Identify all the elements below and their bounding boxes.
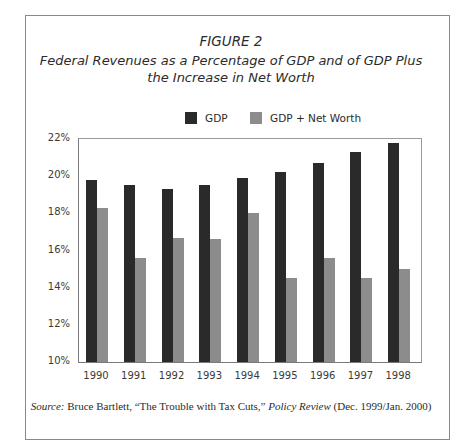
x-tick-label: 1998 <box>379 370 417 381</box>
source-author: Bruce Bartlett, “The Trouble with Tax Cu… <box>64 400 268 412</box>
legend: GDP GDP + Net Worth <box>0 110 462 126</box>
bar-gdp-net-worth-1991 <box>135 258 146 362</box>
y-tick-label: 14% <box>36 281 70 292</box>
bar-gdp-1993 <box>199 185 210 362</box>
bar-gdp-1996 <box>313 163 324 362</box>
bar-gdp-net-worth-1994 <box>248 213 259 362</box>
legend-label-gdp-net-worth: GDP + Net Worth <box>270 112 361 124</box>
y-tick-label: 20% <box>36 169 70 180</box>
bar-gdp-1994 <box>237 178 248 362</box>
bar-gdp-1995 <box>275 172 286 362</box>
bar-gdp-1997 <box>350 152 361 362</box>
legend-label-gdp: GDP <box>205 112 228 124</box>
y-tick-label: 16% <box>36 244 70 255</box>
plot-area <box>78 138 422 363</box>
source-note: Source: Bruce Bartlett, “The Trouble wit… <box>0 400 462 412</box>
chart-title-line-1: Federal Revenues as a Percentage of GDP … <box>0 52 462 69</box>
figure-label: FIGURE 2 <box>0 33 462 49</box>
bar-gdp-1991 <box>124 185 135 362</box>
chart-title: Federal Revenues as a Percentage of GDP … <box>0 52 462 86</box>
y-tick-label: 12% <box>36 318 70 329</box>
legend-swatch-gdp-net-worth <box>250 112 262 124</box>
bar-gdp-1990 <box>86 180 97 362</box>
x-tick-label: 1990 <box>77 370 115 381</box>
legend-swatch-gdp <box>185 112 197 124</box>
source-prefix: Source: <box>31 400 65 412</box>
bar-gdp-1998 <box>388 143 399 362</box>
y-tick-label: 22% <box>36 132 70 143</box>
x-tick-label: 1996 <box>304 370 342 381</box>
x-tick-label: 1991 <box>115 370 153 381</box>
x-tick-label: 1995 <box>266 370 304 381</box>
bar-gdp-net-worth-1992 <box>173 238 184 363</box>
x-tick-label: 1997 <box>341 370 379 381</box>
bar-gdp-net-worth-1990 <box>97 208 108 362</box>
legend-item-gdp: GDP <box>185 110 228 126</box>
legend-item-gdp-net-worth: GDP + Net Worth <box>250 110 361 126</box>
chart-title-line-2: the Increase in Net Worth <box>0 69 462 86</box>
x-tick-label: 1993 <box>190 370 228 381</box>
y-tick-label: 18% <box>36 206 70 217</box>
bar-gdp-net-worth-1996 <box>324 258 335 362</box>
bar-gdp-net-worth-1997 <box>361 278 372 362</box>
bar-gdp-net-worth-1995 <box>286 278 297 362</box>
source-date: (Dec. 1999/Jan. 2000) <box>331 400 432 412</box>
bar-gdp-1992 <box>162 189 173 362</box>
source-publication: Policy Review <box>268 400 331 412</box>
y-tick-label: 10% <box>36 355 70 366</box>
x-tick-label: 1992 <box>153 370 191 381</box>
bar-gdp-net-worth-1998 <box>399 269 410 362</box>
bar-gdp-net-worth-1993 <box>210 239 221 362</box>
x-tick-label: 1994 <box>228 370 266 381</box>
